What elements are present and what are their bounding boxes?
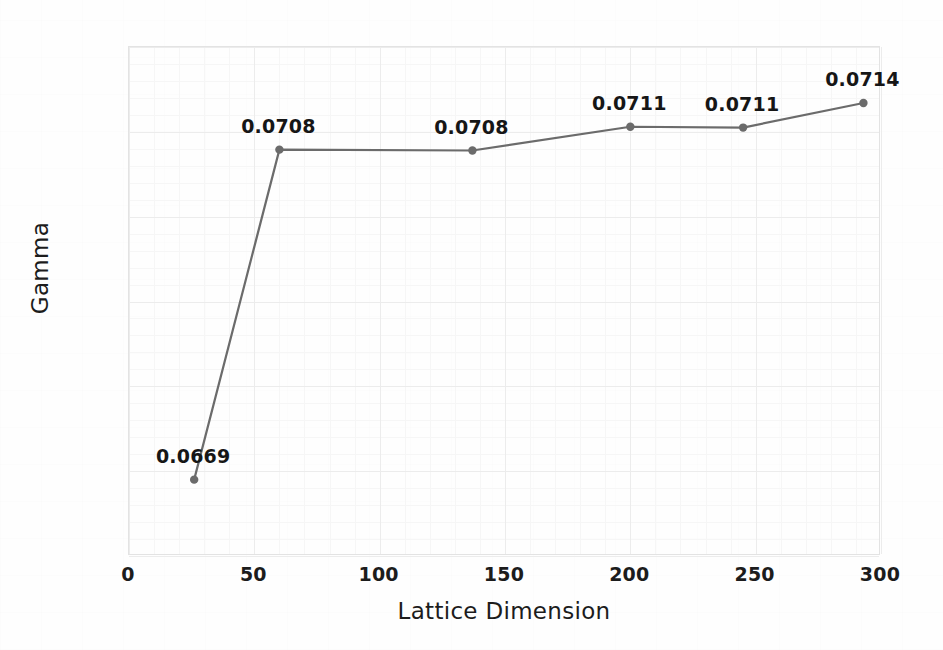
y-axis-title: Gamma	[27, 168, 53, 368]
data-point-value-label: 0.0711	[592, 92, 667, 114]
x-tick-label: 0	[121, 563, 134, 585]
data-point-value-label: 0.0669	[156, 445, 231, 467]
x-axis-title: Lattice Dimension	[128, 598, 880, 624]
x-tick-label: 150	[484, 563, 524, 585]
data-point-value-label: 0.0708	[434, 116, 509, 138]
x-tick-label: 50	[240, 563, 267, 585]
x-tick-label: 100	[359, 563, 399, 585]
x-tick-label: 300	[860, 563, 900, 585]
x-tick-label: 250	[735, 563, 775, 585]
data-point-value-label: 0.0708	[241, 115, 316, 137]
chart-figure: 0.0660.0670.0680.0690.070.0710.072 05010…	[0, 0, 943, 650]
data-point-value-label: 0.0711	[705, 93, 780, 115]
x-axis-tick-labels: 050100150200250300	[0, 0, 943, 650]
data-point-value-label: 0.0714	[825, 68, 900, 90]
x-tick-label: 200	[609, 563, 649, 585]
